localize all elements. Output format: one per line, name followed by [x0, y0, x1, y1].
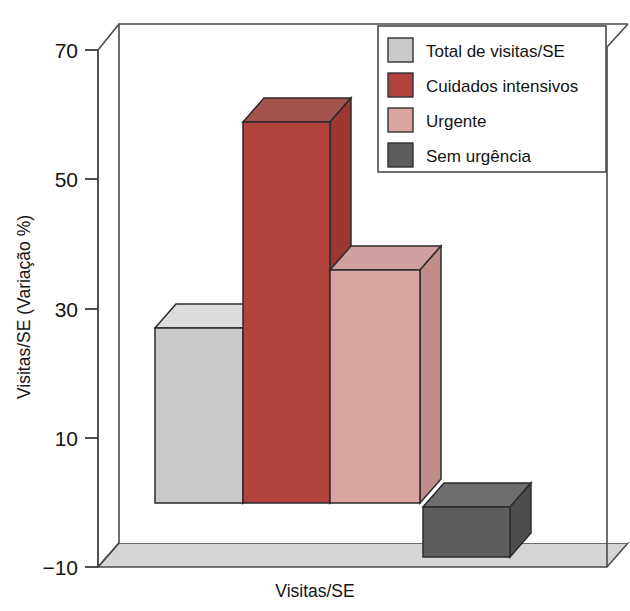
y-tick-label-30: 30: [55, 298, 78, 321]
bar-urgente: [330, 246, 441, 503]
chart-legend: Total de visitas/SE Cuidados intensivos …: [378, 26, 606, 172]
bar-chart-3d: 70 50 30 10 −10 Visitas/SE (Variação %) …: [0, 0, 630, 611]
legend-item-sem-urgencia[interactable]: Sem urgência: [388, 143, 531, 167]
y-axis: 70 50 30 10 −10 Visitas/SE (Variação %): [14, 24, 119, 579]
legend-label-cuidados-intensivos: Cuidados intensivos: [426, 77, 578, 96]
y-tick-label-10: 10: [55, 427, 78, 450]
x-axis-title: Visitas/SE: [275, 581, 354, 601]
y-tick-label-70: 70: [55, 39, 78, 62]
bar-3-front-face: [330, 270, 420, 503]
legend-item-urgente[interactable]: Urgente: [388, 108, 486, 132]
chart-container: 70 50 30 10 −10 Visitas/SE (Variação %) …: [0, 0, 630, 611]
legend-label-sem-urgencia: Sem urgência: [426, 147, 531, 166]
legend-label-urgente: Urgente: [426, 112, 486, 131]
bar-4-front-face: [423, 507, 510, 557]
legend-swatch-total-de-visitas-se: [388, 38, 413, 62]
legend-label-total-de-visitas-se: Total de visitas/SE: [426, 42, 565, 61]
bar-1-front-face: [155, 328, 243, 503]
floor-surface: [98, 543, 628, 567]
y-tick-label-50: 50: [55, 168, 78, 191]
legend-swatch-sem-urgencia: [388, 143, 413, 167]
bar-3-side-face: [420, 246, 441, 503]
legend-swatch-urgente: [388, 108, 413, 132]
legend-swatch-cuidados-intensivos: [388, 73, 413, 97]
y-axis-title: Visitas/SE (Variação %): [14, 215, 34, 399]
x-axis: Visitas/SE: [275, 581, 354, 601]
y-axis-top-diagonal: [98, 24, 119, 50]
y-tick-label-neg10: −10: [42, 556, 78, 579]
chart-floor: [98, 543, 628, 567]
bar-2-front-face: [243, 122, 330, 503]
bar-sem-urgencia: [423, 483, 531, 557]
